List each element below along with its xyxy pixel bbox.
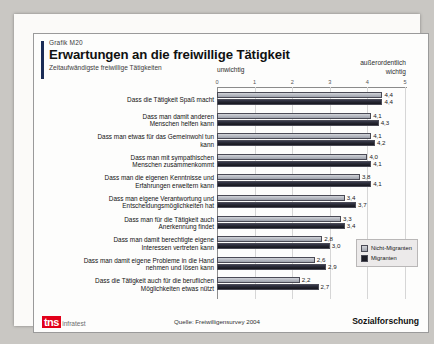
bar-mg xyxy=(217,140,375,146)
category-label: Dass man eigene Verantwortung undEntsche… xyxy=(46,195,214,210)
category-label: Dass man mit sympathischenMenschen zusam… xyxy=(46,154,214,169)
bar-value-label: 4,3 xyxy=(381,119,390,126)
bar-group: 2,22,7 xyxy=(217,277,407,292)
x-tick-label: 2 xyxy=(291,79,294,85)
axis-low-caption: unwichtig xyxy=(217,66,245,73)
graphic-number: Grafik M20 xyxy=(49,39,83,46)
bar-value-label: 2,8 xyxy=(324,235,333,242)
bar-value-label: 3,4 xyxy=(347,194,356,201)
category-label: Dass man damit anderenMenschen helfen ka… xyxy=(46,113,214,128)
category-label-line: Dass man damit eigene Probleme in die Ha… xyxy=(46,257,214,265)
bar-value-label: 4,0 xyxy=(369,153,378,160)
category-label-line: Dass man die eigenen Kenntnisse und xyxy=(46,174,214,182)
header-accent-bar xyxy=(41,41,44,79)
bar-nm xyxy=(217,236,322,242)
category-label-line: kann xyxy=(46,141,214,149)
x-tick-label: 0 xyxy=(215,79,218,85)
category-label-line: Dass man eigene Verantwortung und xyxy=(46,195,214,203)
category-label-line: Dass man für die Tätigkeit auch xyxy=(46,216,214,224)
bar-group: 4,44,4 xyxy=(217,92,407,107)
bar-group: 4,04,1 xyxy=(217,154,407,169)
bar-value-label: 3,4 xyxy=(347,222,356,229)
category-label: Dass man die eigenen Kenntnisse undErfah… xyxy=(46,174,214,189)
category-label-line: Dass man damit anderen xyxy=(46,113,214,121)
axis-high-caption: außerordentlich wichtig xyxy=(334,59,406,76)
bar-nm xyxy=(217,174,360,180)
category-label: Dass die Tätigkeit Spaß macht xyxy=(46,96,214,104)
bar-nm xyxy=(217,277,300,283)
bar-value-label: 2,9 xyxy=(328,263,337,270)
bar-nm xyxy=(217,154,367,160)
bar-value-label: 2,2 xyxy=(302,276,311,283)
bar-value-label: 2,6 xyxy=(317,256,326,263)
bar-group: 4,14,3 xyxy=(217,113,407,128)
category-label-line: Erfahrungen erweitern kann xyxy=(46,182,214,190)
bar-value-label: 3,7 xyxy=(358,201,367,208)
bar-mg xyxy=(217,120,379,126)
bar-nm xyxy=(217,195,345,201)
category-label-line: nehmen und lösen kann xyxy=(46,264,214,272)
legend: Nicht-MigrantenMigranten xyxy=(356,239,418,267)
bar-nm xyxy=(217,257,315,263)
bar-value-label: 4,1 xyxy=(373,180,382,187)
axis-high-caption-line2: wichtig xyxy=(334,68,406,77)
source-note: Quelle: Freiwilligensurvey 2004 xyxy=(174,318,260,325)
legend-item: Nicht-Migranten xyxy=(361,243,413,253)
footer: tns infratest Quelle: Freiwilligensurvey… xyxy=(34,306,428,332)
bar-value-label: 3,8 xyxy=(362,173,371,180)
bar-group: 4,14,2 xyxy=(217,133,407,148)
bar-mg xyxy=(217,99,382,105)
page-subtitle: Zeitaufwändigste freiwillige Tätigkeiten xyxy=(49,64,162,71)
bar-mg xyxy=(217,284,319,290)
bar-value-label: 4,2 xyxy=(377,139,386,146)
legend-label: Nicht-Migranten xyxy=(371,245,412,251)
bar-value-label: 3,0 xyxy=(332,242,341,249)
screenshot-canvas: Grafik M20 Erwartungen an die freiwillig… xyxy=(0,0,434,344)
logo-wordmark: infratest xyxy=(62,320,85,327)
bar-value-label: 4,4 xyxy=(384,98,393,105)
bar-mg xyxy=(217,161,371,167)
category-label-line: Dass man damit berechtigte eigene xyxy=(46,236,214,244)
legend-swatch xyxy=(361,245,368,252)
bar-value-label: 4,1 xyxy=(373,112,382,119)
bar-group: 3,84,1 xyxy=(217,174,407,189)
category-label: Dass die Tätigkeit auch für die beruflic… xyxy=(46,277,214,292)
category-label-line: Entscheidungsmöglichkeiten hat xyxy=(46,202,214,210)
page-title: Erwartungen an die freiwillige Tätigkeit xyxy=(49,47,290,62)
bar-mg xyxy=(217,243,330,249)
bar-mg xyxy=(217,223,345,229)
bar-value-label: 3,3 xyxy=(343,215,352,222)
category-label: Dass man damit eigene Probleme in die Ha… xyxy=(46,257,214,272)
bar-mg xyxy=(217,202,356,208)
x-tick-label: 3 xyxy=(328,79,331,85)
bar-nm xyxy=(217,92,382,98)
category-label-line: Dass man etwas für das Gemeinwohl tun xyxy=(46,133,214,141)
axis-high-caption-line1: außerordentlich xyxy=(334,59,406,68)
bar-value-label: 4,1 xyxy=(373,160,382,167)
category-axis: Dass die Tätigkeit Spaß machtDass man da… xyxy=(44,79,214,299)
category-label-line: Interessen vertreten kann xyxy=(46,244,214,252)
category-label-line: Dass die Tätigkeit auch für die beruflic… xyxy=(46,277,214,285)
bar-mg xyxy=(217,264,326,270)
category-label: Dass man etwas für das Gemeinwohl tunkan… xyxy=(46,133,214,148)
category-label-line: Menschen helfen kann xyxy=(46,120,214,128)
category-label-line: Möglichkeiten etwas nützt xyxy=(46,285,214,293)
legend-item: Migranten xyxy=(361,253,413,263)
bar-group: 3,33,4 xyxy=(217,216,407,231)
bar-group: 3,43,7 xyxy=(217,195,407,210)
category-label-line: Dass die Tätigkeit Spaß macht xyxy=(46,96,214,104)
logo-mark: tns xyxy=(42,316,61,328)
bar-mg xyxy=(217,181,371,187)
legend-label: Migranten xyxy=(371,255,397,261)
category-label: Dass man für die Tätigkeit auchAnerkennu… xyxy=(46,216,214,231)
axis-line xyxy=(217,87,407,88)
bar-nm xyxy=(217,113,371,119)
category-label-line: Dass man mit sympathischen xyxy=(46,154,214,162)
category-label-line: Anerkennung findet xyxy=(46,223,214,231)
bar-value-label: 2,7 xyxy=(321,283,330,290)
bar-value-label: 4,4 xyxy=(384,91,393,98)
bar-nm xyxy=(217,133,371,139)
x-tick-label: 5 xyxy=(403,79,406,85)
scanned-page: Grafik M20 Erwartungen an die freiwillig… xyxy=(14,14,420,326)
tns-infratest-logo: tns infratest xyxy=(42,316,86,328)
